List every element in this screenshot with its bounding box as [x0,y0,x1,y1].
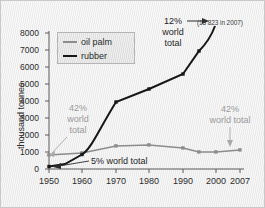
annotation-12pct-line1: 12% [159,16,187,26]
legend-label-oil-palm: oil palm [81,37,112,47]
legend-item-oil-palm: oil palm [63,35,112,49]
annotation-42pct-left-line2: world [58,114,98,124]
x-axis-ticks [49,169,240,173]
annotation-42pct-right-line2: world total [200,115,260,125]
annotation-leader-right [227,127,233,147]
y-tick-6000: 6000 [5,62,39,72]
legend-swatch-oil-palm [63,41,77,43]
x-tick-1960: 1960 [65,176,99,186]
x-tick-1950: 1950 [32,176,66,186]
y-tick-8000: 8000 [5,28,39,38]
y-tick-3000: 3000 [5,113,39,123]
annotation-12pct-line3: total [153,38,193,48]
y-tick-5000: 5000 [5,79,39,89]
chart-legend: oil palm rubber [57,32,135,64]
y-tick-7000: 7000 [5,45,39,55]
x-tick-2007: 2007 [223,176,257,186]
legend-swatch-rubber [63,55,77,57]
legend-item-rubber: rubber [63,49,107,63]
annotation-leader-bottom [53,161,89,169]
x-tick-1990: 1990 [166,176,200,186]
legend-label-rubber: rubber [81,51,107,61]
annotation-42pct-right-line1: 42% [213,104,247,114]
chart-figure: thousand tonnes 8000 7000 6000 5000 4000… [0,0,265,208]
annotation-42pct-left-line3: total [58,125,98,135]
y-tick-2000: 2000 [5,130,39,140]
y-tick-0: 0 [5,164,39,174]
x-tick-1980: 1980 [132,176,166,186]
y-tick-1000: 1000 [5,147,39,157]
x-tick-1970: 1970 [99,176,133,186]
series-oil-palm [47,143,241,156]
annotation-5pct-world-total: 5% world total [91,156,148,166]
y-axis-ticks [45,33,49,169]
annotation-42pct-left-line1: 42% [61,103,95,113]
annotation-2007-value: (15 823 in 2007) [197,18,243,28]
y-tick-4000: 4000 [5,96,39,106]
annotation-12pct-line2: world [153,27,193,37]
